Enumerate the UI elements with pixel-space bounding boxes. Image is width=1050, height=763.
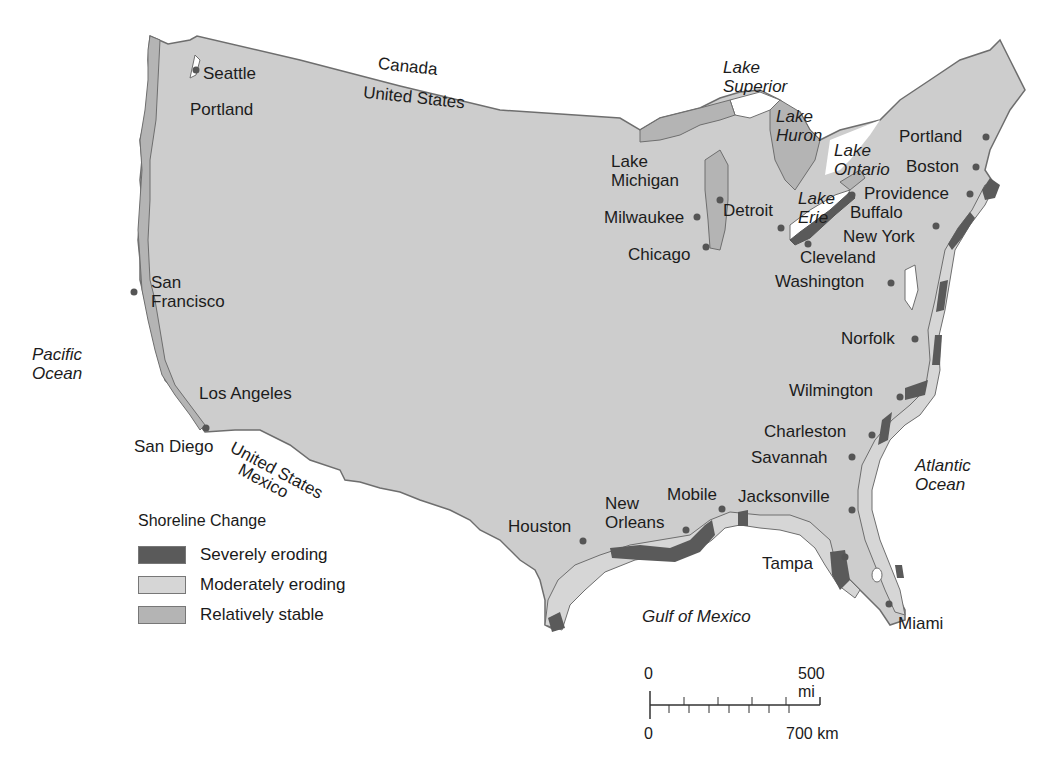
legend-label: Severely eroding <box>200 545 328 565</box>
city-portland-or: Portland <box>190 100 253 119</box>
city-portland-me: Portland <box>899 127 962 146</box>
scale-ticks <box>640 687 840 723</box>
us-shoreline-map <box>0 0 1050 763</box>
city-buffalo: Buffalo <box>850 203 903 222</box>
scale-km-end: 700 km <box>786 725 838 743</box>
lake-huron-label: LakeHuron <box>776 107 822 145</box>
city-milwaukee: Milwaukee <box>604 208 684 227</box>
legend-label: Moderately eroding <box>200 575 346 595</box>
city-washington: Washington <box>775 272 864 291</box>
city-san-francisco: SanFrancisco <box>151 273 225 311</box>
legend-item-moderate: Moderately eroding <box>138 570 346 600</box>
pacific-ocean-label: PacificOcean <box>32 345 82 383</box>
atlantic-ocean-label: AtlanticOcean <box>915 456 971 494</box>
city-norfolk: Norfolk <box>841 329 895 348</box>
city-san-diego: San Diego <box>134 437 213 456</box>
city-miami: Miami <box>898 614 943 633</box>
legend-title: Shoreline Change <box>138 512 346 530</box>
city-new-orleans: NewOrleans <box>605 494 665 532</box>
relatively-stable-swatch <box>138 606 186 624</box>
lake-ontario-label: LakeOntario <box>834 141 890 179</box>
city-charleston: Charleston <box>764 422 846 441</box>
city-jacksonville: Jacksonville <box>738 487 830 506</box>
city-cleveland: Cleveland <box>800 248 876 267</box>
city-los-angeles: Los Angeles <box>199 384 292 403</box>
lake-erie-label: LakeErie <box>798 189 835 227</box>
severe-eroding-swatch <box>138 546 186 564</box>
scale-km-start: 0 <box>644 725 653 743</box>
city-seattle: Seattle <box>203 64 256 83</box>
legend-label: Relatively stable <box>200 605 324 625</box>
city-providence: Providence <box>864 184 949 203</box>
city-houston: Houston <box>508 517 571 536</box>
city-wilmington: Wilmington <box>789 381 873 400</box>
city-mobile: Mobile <box>667 485 717 504</box>
lake-michigan-label: LakeMichigan <box>611 152 679 190</box>
city-new-york: New York <box>843 227 915 246</box>
gulf-coast-severe-panhandle <box>738 510 748 526</box>
lake-superior-label: LakeSuperior <box>723 58 787 96</box>
city-savannah: Savannah <box>751 448 828 467</box>
lake-okeechobee <box>872 568 882 582</box>
city-boston: Boston <box>906 157 959 176</box>
scale-bar: 0 500 mi 0 700 km <box>640 665 840 755</box>
moderate-eroding-swatch <box>138 576 186 594</box>
legend-item-severe: Severely eroding <box>138 540 346 570</box>
map-legend: Shoreline Change Severely eroding Modera… <box>138 512 346 630</box>
city-chicago: Chicago <box>628 245 690 264</box>
city-detroit: Detroit <box>723 201 773 220</box>
city-tampa: Tampa <box>762 554 813 573</box>
scale-mi-start: 0 <box>644 665 653 683</box>
legend-item-stable: Relatively stable <box>138 600 346 630</box>
east-coast-severe-fl <box>895 565 904 578</box>
gulf-of-mexico-label: Gulf of Mexico <box>642 607 751 626</box>
